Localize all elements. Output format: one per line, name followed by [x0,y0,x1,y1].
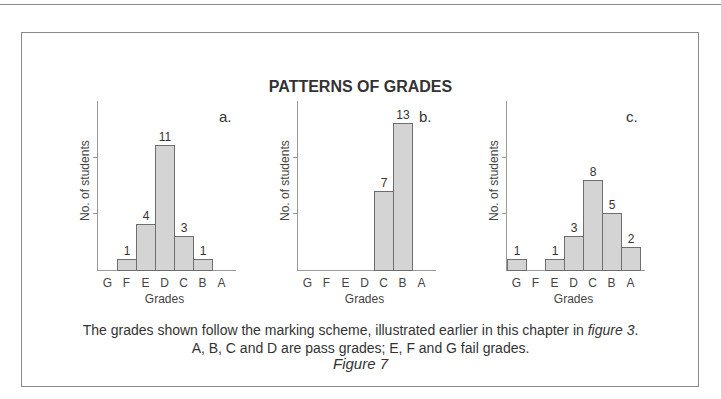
bar [374,191,394,271]
y-axis-label: No. of students [78,140,92,221]
y-tick [93,213,98,214]
figure-title: PATTERNS OF GRADES [0,78,721,96]
y-axis [97,101,98,270]
x-tick-label: G [98,276,117,290]
bar [602,213,622,271]
x-axis-label: Grades [125,292,205,306]
figure-label: Figure 7 [0,355,721,372]
bar [174,236,194,271]
x-tick-label: A [621,276,640,290]
bar [507,259,527,271]
y-tick [293,157,298,158]
x-tick-label: D [155,276,174,290]
chart-panel-label: b. [419,108,432,125]
bar [117,259,137,271]
bar-value-label: 4 [136,209,156,223]
caption-text: The grades shown follow the marking sche… [83,322,588,338]
x-tick-label: B [602,276,621,290]
caption-figure-ref: figure 3 [588,322,635,338]
caption-line-1: The grades shown follow the marking sche… [0,321,721,339]
x-axis [297,270,436,271]
caption-period: . [634,322,638,338]
bar-value-label: 3 [564,221,584,235]
chart-panel-label: a. [219,108,232,125]
bar-value-label: 5 [602,198,622,212]
x-tick-label: D [564,276,583,290]
y-tick [93,157,98,158]
bar-value-label: 11 [155,130,175,144]
bar [136,224,156,271]
bar-value-label: 1 [193,244,213,258]
bar-value-label: 1 [545,244,565,258]
bar [621,247,641,271]
x-tick-label: C [374,276,393,290]
bar-value-label: 3 [174,221,194,235]
x-axis-label: Grades [534,292,614,306]
x-tick-label: C [583,276,602,290]
chart-panel-label: c. [626,108,638,125]
bar [393,123,413,271]
x-tick-label: C [174,276,193,290]
bar-value-label: 13 [393,108,413,122]
bar [193,259,213,271]
x-tick-label: A [412,276,431,290]
x-axis-label: Grades [325,292,405,306]
bar [583,180,603,271]
bar [564,236,584,271]
x-tick-label: A [212,276,231,290]
y-axis-label: No. of students [278,140,292,221]
x-tick-label: B [393,276,412,290]
x-tick-label: G [507,276,526,290]
x-tick-label: B [193,276,212,290]
bar-value-label: 2 [621,232,641,246]
x-tick-label: E [336,276,355,290]
top-rule [0,4,721,5]
y-axis [297,101,298,270]
y-tick [293,213,298,214]
bar-value-label: 1 [507,244,527,258]
y-axis-label: No. of students [487,140,501,221]
bar-value-label: 8 [583,165,603,179]
y-tick [502,157,507,158]
x-tick-label: G [298,276,317,290]
bar-value-label: 7 [374,176,394,190]
x-tick-label: F [526,276,545,290]
x-tick-label: E [136,276,155,290]
x-tick-label: E [545,276,564,290]
bar [155,145,175,271]
x-tick-label: F [317,276,336,290]
bar [545,259,565,271]
y-tick [502,213,507,214]
x-tick-label: D [355,276,374,290]
x-tick-label: F [117,276,136,290]
bar-value-label: 1 [117,244,137,258]
